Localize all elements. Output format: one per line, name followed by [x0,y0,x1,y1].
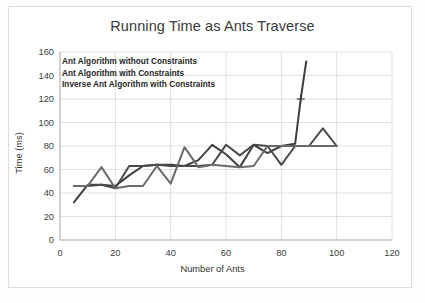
chart-container: Running Time as Ants Traverse Ant Algori… [0,0,425,303]
x-axis-title: Number of Ants [0,264,425,274]
y-tick-label: 120 [20,94,54,104]
y-tick-label: 160 [20,47,54,57]
y-tick-label: 20 [20,212,54,222]
x-tick-label: 60 [206,248,246,258]
x-tick-label: 20 [95,248,135,258]
chart-legend: Ant Algorithm without Constraints Ant Al… [62,56,215,91]
y-tick-label: 140 [20,71,54,81]
legend-item-1: Ant Algorithm without Constraints [62,56,215,68]
x-tick-label: 0 [40,248,80,258]
legend-item-2: Ant Algorithm with Constraints [62,68,215,80]
y-tick-label: 40 [20,188,54,198]
x-tick-label: 40 [151,248,191,258]
y-tick-label: 0 [20,235,54,245]
x-tick-label: 120 [372,248,412,258]
y-axis-title: Time (ms) [14,118,24,188]
legend-item-3: Inverse Ant Algorithm with Constraints [62,79,215,91]
y-tick-label: 60 [20,165,54,175]
x-tick-label: 100 [317,248,357,258]
x-tick-label: 80 [261,248,301,258]
y-tick-label: 80 [20,141,54,151]
y-tick-label: 100 [20,118,54,128]
